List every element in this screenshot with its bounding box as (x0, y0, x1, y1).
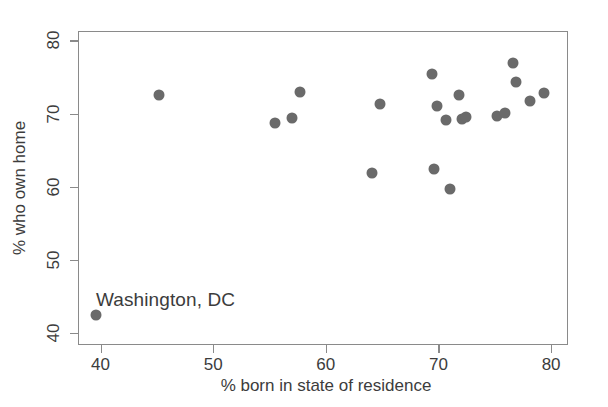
y-tick-label: 60 (42, 177, 66, 197)
y-tick-mark (70, 114, 78, 115)
data-point (461, 112, 472, 123)
x-tick-label: 60 (304, 355, 348, 375)
data-point (153, 89, 164, 100)
data-point (366, 167, 377, 178)
data-point (539, 88, 550, 99)
x-tick-mark (326, 345, 327, 353)
data-point (426, 69, 437, 80)
y-axis-title: % who own home (8, 31, 32, 345)
x-axis-title: % born in state of residence (0, 376, 608, 396)
data-point (294, 86, 305, 97)
scatter-plot-figure: % who own home 4050607080 4050607080 Was… (0, 0, 608, 407)
y-axis-title-text: % who own home (10, 121, 30, 255)
data-point (428, 163, 439, 174)
x-tick-label: 40 (79, 355, 123, 375)
data-point (507, 57, 518, 68)
x-tick-mark (213, 345, 214, 353)
x-tick-mark (551, 345, 552, 353)
y-tick-label: 40 (42, 323, 66, 343)
x-tick-label: 50 (191, 355, 235, 375)
data-point (270, 117, 281, 128)
y-tick-label: 70 (42, 104, 66, 124)
y-tick-label: 80 (42, 30, 66, 50)
data-point (444, 184, 455, 195)
data-point (286, 113, 297, 124)
data-point (441, 114, 452, 125)
data-point (524, 95, 535, 106)
data-point (453, 89, 464, 100)
data-point (511, 76, 522, 87)
data-point (374, 98, 385, 109)
data-point (90, 310, 101, 321)
x-axis-title-text: % born in state of residence (221, 376, 432, 396)
x-tick-label: 80 (529, 355, 573, 375)
y-tick-mark (70, 333, 78, 334)
x-tick-mark (101, 345, 102, 353)
y-tick-label: 50 (42, 250, 66, 270)
x-tick-label: 70 (416, 355, 460, 375)
data-point (432, 101, 443, 112)
annotation-washington-dc: Washington, DC (96, 289, 235, 311)
y-tick-mark (70, 40, 78, 41)
y-tick-mark (70, 260, 78, 261)
data-point (499, 108, 510, 119)
x-tick-mark (438, 345, 439, 353)
y-tick-mark (70, 187, 78, 188)
